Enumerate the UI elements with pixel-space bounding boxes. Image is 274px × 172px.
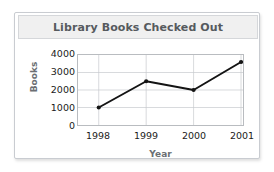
data-series-line [99, 62, 241, 108]
data-point-marker [239, 60, 243, 64]
x-tick-label: 1998 [75, 131, 121, 141]
y-tick-label: 0 [37, 121, 75, 131]
y-tick-label: 1000 [37, 103, 75, 113]
chart-card: Library Books Checked Out Books 4000 300… [14, 12, 260, 159]
x-tick-label: 1999 [123, 131, 169, 141]
horizontal-gridlines [78, 73, 243, 108]
x-tick-label: 2001 [219, 131, 265, 141]
y-tick-label: 3000 [37, 67, 75, 77]
y-tick-label: 4000 [37, 49, 75, 59]
chart-container: Books 4000 3000 2000 1000 0 [15, 39, 259, 158]
line-chart-svg [78, 55, 243, 125]
y-tick-label: 2000 [37, 85, 75, 95]
y-axis-tick-labels: 4000 3000 2000 1000 0 [37, 54, 75, 126]
x-axis-tick-labels: 1998 1999 2000 2001 [77, 131, 244, 145]
page-title: Library Books Checked Out [53, 21, 223, 34]
plot-area [77, 54, 244, 126]
screenshot-root: Library Books Checked Out Books 4000 300… [0, 0, 274, 172]
chart-title-bar: Library Books Checked Out [18, 15, 258, 39]
data-point-marker [97, 105, 101, 109]
x-tick-label: 2000 [171, 131, 217, 141]
data-point-marker [192, 88, 196, 92]
x-axis-title: Year [77, 149, 244, 159]
data-point-marker [144, 79, 148, 83]
